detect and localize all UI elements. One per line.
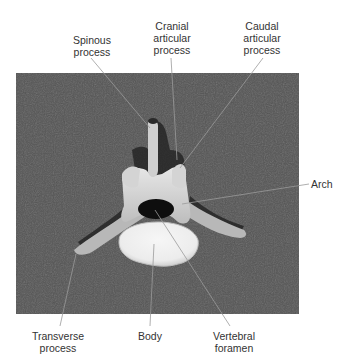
- label-cranial-articular-process: Cranial articular process: [146, 20, 198, 56]
- label-line: Spinous: [66, 34, 118, 46]
- label-line: Arch: [311, 178, 333, 190]
- label-arch: Arch: [311, 178, 333, 190]
- label-line: Transverse: [28, 330, 88, 342]
- label-line: process: [146, 44, 198, 56]
- vertebral-foramen-shape: [138, 199, 174, 219]
- label-transverse-process: Transverse process: [28, 330, 88, 354]
- label-line: Caudal: [236, 20, 288, 32]
- label-line: process: [28, 342, 88, 354]
- label-line: articular: [236, 32, 288, 44]
- label-line: process: [66, 46, 118, 58]
- label-vertebral-foramen: Vertebral foramen: [206, 330, 262, 354]
- label-line: Body: [130, 330, 170, 342]
- label-spinous-process: Spinous process: [66, 34, 118, 58]
- label-body: Body: [130, 330, 170, 342]
- label-line: articular: [146, 32, 198, 44]
- vertebral-body-shape: [119, 222, 198, 266]
- vertebra-diagram: Spinous process Cranial articular proces…: [0, 0, 347, 360]
- label-line: process: [236, 44, 288, 56]
- label-line: Cranial: [146, 20, 198, 32]
- label-line: Vertebral: [206, 330, 262, 342]
- label-caudal-articular-process: Caudal articular process: [236, 20, 288, 56]
- label-line: foramen: [206, 342, 262, 354]
